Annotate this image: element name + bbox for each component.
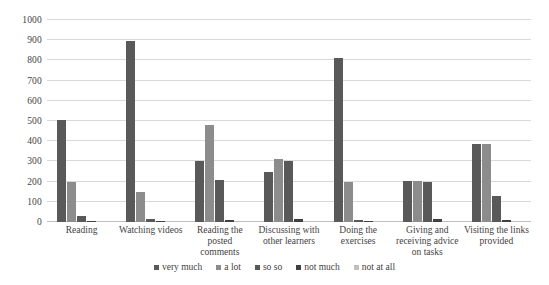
bar: [67, 182, 76, 222]
bar: [512, 221, 521, 222]
bar: [403, 181, 412, 222]
x-axis-category-label: Watching videos: [116, 225, 185, 261]
y-axis-tick-label: 700: [27, 76, 42, 86]
bar: [57, 120, 66, 222]
x-axis-category-labels: ReadingWatching videosReading the posted…: [47, 225, 531, 261]
legend-swatch-icon: [216, 265, 221, 270]
bar-set: [462, 20, 531, 222]
bar: [156, 221, 165, 222]
x-axis-category-label: Discussing with other learners: [254, 225, 323, 261]
legend-item[interactable]: very much: [154, 262, 202, 272]
bar-group: [47, 20, 116, 222]
bar: [235, 221, 244, 222]
bar: [354, 220, 363, 222]
bar: [443, 221, 452, 222]
legend-label: not at all: [362, 262, 395, 272]
legend-swatch-icon: [154, 265, 159, 270]
bar-group: [324, 20, 393, 222]
x-axis-category-label: Reading the posted comments: [185, 225, 254, 261]
bar-groups: [47, 20, 531, 222]
y-axis-tick-label: 100: [27, 197, 42, 207]
legend-label: not much: [304, 262, 340, 272]
bar: [364, 221, 373, 222]
bar: [502, 220, 511, 222]
chart-container: 01002003004005006007008009001000 Reading…: [0, 0, 549, 285]
bar-group: [116, 20, 185, 222]
legend-swatch-icon: [255, 265, 260, 270]
x-axis-category-label: Doing the exercises: [324, 225, 393, 261]
bar: [294, 219, 303, 222]
bar: [334, 58, 343, 222]
bar: [374, 221, 383, 222]
bar-group: [185, 20, 254, 222]
bar: [304, 221, 313, 222]
bar: [166, 221, 175, 222]
bar-set: [47, 20, 116, 222]
legend-label: very much: [162, 262, 202, 272]
y-axis-tick-label: 200: [27, 177, 42, 187]
y-axis-tick-label: 900: [27, 35, 42, 45]
y-axis-tick-labels: 01002003004005006007008009001000: [0, 20, 42, 222]
bar: [274, 159, 283, 222]
y-axis-tick-label: 1000: [22, 15, 42, 25]
bar: [77, 216, 86, 222]
bar: [205, 125, 214, 222]
legend-item[interactable]: not much: [296, 262, 340, 272]
chart-legend: very mucha lotso sonot muchnot at all: [0, 262, 549, 272]
y-axis-tick-label: 400: [27, 136, 42, 146]
bar: [413, 181, 422, 222]
bar-group: [254, 20, 323, 222]
legend-item[interactable]: not at all: [354, 262, 395, 272]
bar: [344, 182, 353, 222]
bar: [482, 144, 491, 222]
bar: [195, 161, 204, 222]
bar-set: [324, 20, 393, 222]
y-axis-tick-label: 800: [27, 55, 42, 65]
x-axis-category-label: Reading: [47, 225, 116, 261]
bar: [284, 161, 293, 222]
bar: [87, 221, 96, 222]
bar: [97, 221, 106, 222]
y-axis-tick-label: 300: [27, 156, 42, 166]
x-axis-category-label: Visiting the links provided: [462, 225, 531, 261]
bar-set: [254, 20, 323, 222]
bar: [146, 219, 155, 222]
bar-set: [185, 20, 254, 222]
legend-swatch-icon: [296, 265, 301, 270]
bar: [492, 196, 501, 222]
bar-group: [462, 20, 531, 222]
bar-set: [116, 20, 185, 222]
x-axis-category-label: Giving and receiving advice on tasks: [393, 225, 462, 261]
bar: [423, 182, 432, 222]
legend-swatch-icon: [354, 265, 359, 270]
bar-group: [393, 20, 462, 222]
y-axis-tick-label: 600: [27, 96, 42, 106]
bar: [472, 144, 481, 222]
legend-label: so so: [263, 262, 282, 272]
bar-set: [393, 20, 462, 222]
bar: [264, 172, 273, 223]
bar: [433, 219, 442, 222]
bar: [215, 180, 224, 222]
legend-item[interactable]: a lot: [216, 262, 241, 272]
legend-item[interactable]: so so: [255, 262, 282, 272]
legend-label: a lot: [224, 262, 241, 272]
y-axis-tick-label: 500: [27, 116, 42, 126]
bar: [136, 192, 145, 222]
y-axis-tick-label: 0: [37, 217, 42, 227]
bar: [225, 220, 234, 222]
bar: [126, 41, 135, 222]
